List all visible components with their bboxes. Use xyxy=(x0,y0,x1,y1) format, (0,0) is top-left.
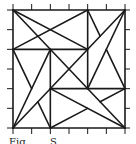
line-segment xyxy=(50,108,87,128)
line-segment xyxy=(88,10,100,36)
caption-text: S xyxy=(50,137,57,144)
dissection-lines xyxy=(13,10,125,128)
line-segment xyxy=(38,102,50,128)
pinwheel-dissection-figure xyxy=(0,0,136,144)
diagram-canvas: Fig. S xyxy=(0,0,136,144)
figure-caption: Fig. S xyxy=(9,137,75,144)
line-segment xyxy=(13,49,32,88)
line-segment xyxy=(106,49,125,88)
caption-label: Fig. xyxy=(9,137,29,144)
line-segment xyxy=(100,89,125,102)
